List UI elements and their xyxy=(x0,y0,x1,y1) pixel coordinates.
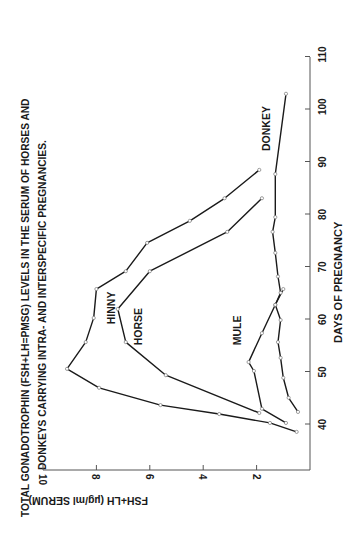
data-point xyxy=(247,360,250,363)
data-point xyxy=(274,303,277,306)
y-tick-label: 2 xyxy=(251,474,262,480)
x-tick-label: 90 xyxy=(317,156,328,168)
data-point xyxy=(97,386,100,389)
data-point xyxy=(92,316,95,319)
data-point xyxy=(252,369,255,372)
data-point xyxy=(260,332,263,335)
data-point xyxy=(274,216,277,219)
title-line-1: TOTAL GONADOTROPHIN (FSH+LH=PMSG) LEVELS… xyxy=(20,99,31,517)
data-point xyxy=(279,318,282,321)
data-point xyxy=(164,374,167,377)
data-point xyxy=(258,168,261,171)
x-tick-label: 70 xyxy=(317,261,328,273)
x-tick-label: 50 xyxy=(317,366,328,378)
y-axis-ticks: 246810 xyxy=(37,465,262,486)
data-point xyxy=(218,412,221,415)
x-tick-label: 40 xyxy=(317,418,328,430)
y-tick-label: 10 xyxy=(37,474,48,486)
series-horse xyxy=(116,197,263,415)
data-point xyxy=(279,291,282,294)
data-point xyxy=(282,287,285,290)
data-point xyxy=(258,411,261,414)
title-line-2: DONKEYS CARRYING INTRA- AND INTERSPECIFI… xyxy=(37,140,48,470)
x-tick-label: 110 xyxy=(317,46,328,63)
data-point xyxy=(223,197,226,200)
data-point xyxy=(65,367,68,370)
data-point xyxy=(287,396,290,399)
label-horse: HORSE xyxy=(132,308,144,345)
y-tick-label: 4 xyxy=(197,474,208,480)
data-point xyxy=(276,341,279,344)
data-point xyxy=(260,407,263,410)
x-axis-label: DAYS OF PREGNANCY xyxy=(332,221,344,343)
data-point xyxy=(124,341,127,344)
data-point xyxy=(146,241,149,244)
data-point xyxy=(284,92,287,95)
data-point xyxy=(271,230,274,233)
y-tick-label: 8 xyxy=(90,474,101,480)
label-hinny: HINNY xyxy=(105,292,117,325)
axes: 405060708090100110 246810 DAYS OF PREGNA… xyxy=(28,46,344,507)
data-point xyxy=(260,197,263,200)
series-labels: HINNYHORSEMULEDONKEY xyxy=(105,106,272,345)
data-point xyxy=(279,356,282,359)
chart-title: TOTAL GONADOTROPHIN (FSH+LH=PMSG) LEVELS… xyxy=(20,99,48,517)
y-tick-label: 6 xyxy=(144,474,155,480)
series-donkey xyxy=(271,92,300,413)
data-point xyxy=(282,376,285,379)
data-point xyxy=(124,270,127,273)
label-mule: MULE xyxy=(231,316,243,346)
x-tick-label: 100 xyxy=(317,98,328,115)
data-point xyxy=(274,173,277,176)
series-line xyxy=(118,198,262,413)
data-point xyxy=(276,275,279,278)
data-point xyxy=(159,404,162,407)
data-point xyxy=(188,219,191,222)
series-mule xyxy=(247,287,288,424)
label-donkey: DONKEY xyxy=(260,106,272,151)
data-point xyxy=(84,341,87,344)
y-axis-label: FSH+LH (µg/ml SERUM) xyxy=(28,495,148,507)
data-point xyxy=(296,410,299,413)
series-hinny xyxy=(65,168,298,433)
data-point xyxy=(95,287,98,290)
data-point xyxy=(295,430,298,433)
data-point xyxy=(268,421,271,424)
data-point xyxy=(226,230,229,233)
x-tick-label: 80 xyxy=(317,208,328,220)
gonadotrophin-chart: TOTAL GONADOTROPHIN (FSH+LH=PMSG) LEVELS… xyxy=(0,0,345,550)
data-point xyxy=(148,270,151,273)
x-tick-label: 60 xyxy=(317,313,328,325)
x-axis-ticks: 405060708090100110 xyxy=(305,46,328,430)
series-line xyxy=(67,170,297,432)
data-point xyxy=(274,251,277,254)
data-point xyxy=(284,421,287,424)
